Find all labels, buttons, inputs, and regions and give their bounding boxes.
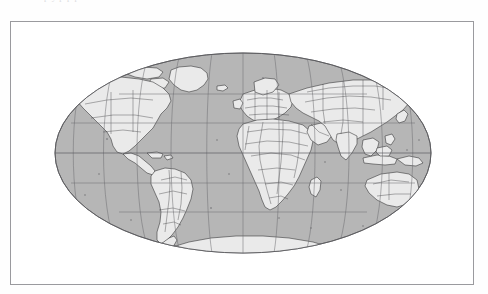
figure-frame [10,21,474,285]
cropped-caption-glyphs: p y p p p [44,0,80,2]
world-map [11,22,473,284]
land-new-zealand [429,197,438,208]
land-new-zealand-south [422,208,431,216]
cropped-caption-text: p y p p p [0,0,488,9]
page-canvas: p y p p p [0,0,488,294]
land-alaska [63,84,83,96]
